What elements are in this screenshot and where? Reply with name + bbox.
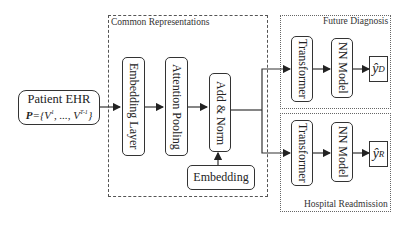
hr-output-sub: R	[379, 149, 385, 159]
fd-transformer-box: Transformer	[291, 36, 313, 102]
fd-nn-model-label: NN Model	[335, 42, 350, 94]
patient-ehr-title: Patient EHR	[28, 93, 91, 106]
embedding-label: Embedding	[193, 170, 248, 185]
hr-nn-model-label: NN Model	[335, 126, 350, 178]
attention-pooling-label: Attention Pooling	[169, 64, 184, 150]
patient-ehr-formula: P={V1, ..., VT-1}	[26, 106, 93, 122]
hr-output-box: ŷR	[369, 141, 388, 167]
embedding-layer-label: Embedding Layer	[126, 63, 141, 149]
fd-output-box: ŷD	[369, 56, 388, 82]
patient-ehr-box: Patient EHR P={V1, ..., VT-1}	[18, 90, 100, 125]
attention-pooling-box: Attention Pooling	[165, 57, 188, 156]
add-norm-box: Add & Norm	[209, 73, 231, 152]
add-norm-label: Add & Norm	[213, 81, 228, 145]
hr-transformer-label: Transformer	[295, 123, 310, 183]
embedding-box: Embedding	[187, 165, 255, 190]
hr-transformer-box: Transformer	[291, 120, 313, 186]
fd-nn-model-box: NN Model	[331, 38, 353, 98]
embedding-layer-box: Embedding Layer	[122, 57, 145, 156]
fd-output-sub: D	[378, 64, 385, 74]
fd-transformer-label: Transformer	[295, 39, 310, 99]
hr-nn-model-box: NN Model	[331, 122, 353, 182]
